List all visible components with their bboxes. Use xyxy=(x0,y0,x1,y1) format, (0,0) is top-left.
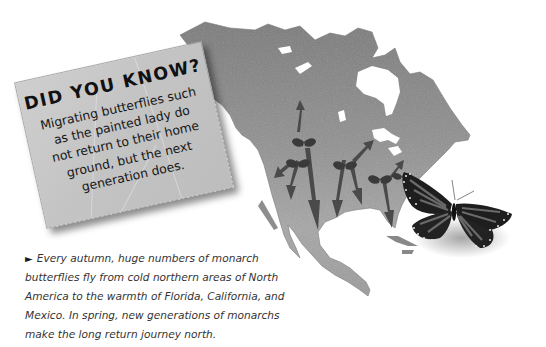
caption-line: Mexico. In spring, new generations of mo… xyxy=(25,306,335,325)
right-triangle-icon: ► xyxy=(25,253,33,264)
caption-line: America to the warmth of Florida, Califo… xyxy=(25,287,335,306)
caption-line: make the long return journey north. xyxy=(25,325,335,344)
map-caption: ►Every autumn, huge numbers of monarch b… xyxy=(25,249,335,344)
caption-line-text: Every autumn, huge numbers of monarch xyxy=(37,252,259,264)
monarch-butterfly-icon xyxy=(402,172,512,258)
caption-line: ►Every autumn, huge numbers of monarch xyxy=(25,249,335,268)
caption-line: butterflies fly from cold northern areas… xyxy=(25,268,335,287)
